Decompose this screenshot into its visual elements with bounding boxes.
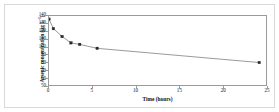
- y-axis-tick-label: 120: [32, 28, 46, 33]
- y-axis-tick-mark: [45, 31, 48, 32]
- data-point-marker: [49, 18, 50, 21]
- y-axis-tick-label: 110: [32, 36, 46, 41]
- x-axis-title: Time (hours): [48, 96, 267, 102]
- y-axis-tick-mark: [45, 70, 48, 71]
- y-axis-tick-label: 90: [32, 52, 46, 57]
- y-axis-tick-mark: [45, 47, 48, 48]
- y-axis-tick-label: 130: [32, 20, 46, 25]
- data-series-markers: [49, 18, 261, 64]
- data-series-line: [49, 19, 259, 62]
- y-axis-tick-label: 80: [32, 60, 46, 65]
- plot-svg: [49, 16, 268, 87]
- y-axis-tick-mark: [45, 15, 48, 16]
- y-axis-tick-label: 100: [32, 44, 46, 49]
- y-axis-tick-mark: [45, 54, 48, 55]
- data-point-marker: [96, 47, 99, 50]
- x-axis-tick-labels: 0510152025: [0, 88, 279, 96]
- data-point-marker: [61, 35, 64, 38]
- x-axis-tick-mark: [48, 86, 49, 89]
- y-axis-tick-label: 70: [32, 68, 46, 73]
- x-axis-tick-mark: [136, 86, 137, 89]
- y-axis-tick-mark: [45, 39, 48, 40]
- plot-area: [48, 15, 267, 86]
- y-axis-tick-mark: [45, 23, 48, 24]
- data-point-marker: [52, 27, 55, 30]
- y-axis-tick-mark: [45, 78, 48, 79]
- y-axis-tick-label: 140: [32, 12, 46, 17]
- data-point-marker: [258, 61, 261, 64]
- x-axis-tick-mark: [267, 86, 268, 89]
- y-axis-tick-mark: [45, 62, 48, 63]
- x-axis-tick-mark: [223, 86, 224, 89]
- x-axis-tick-mark: [179, 86, 180, 89]
- data-point-marker: [70, 42, 73, 45]
- y-axis-tick-label: 60: [32, 76, 46, 81]
- x-axis-tick-mark: [92, 86, 93, 89]
- data-point-marker: [78, 43, 81, 46]
- figure-container: Arsenic concentration (µg L-1) 506070809…: [0, 0, 279, 112]
